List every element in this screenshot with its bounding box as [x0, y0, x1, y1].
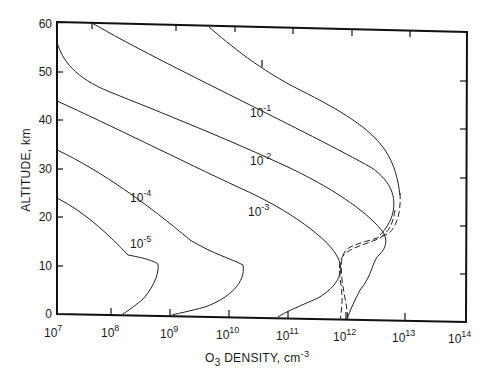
- y-tick-50: 50: [39, 65, 53, 79]
- x-tick-1e11: 1011: [276, 326, 299, 343]
- y-tick-60: 60: [39, 17, 53, 31]
- curves: [57, 23, 400, 320]
- x-tick-1e10: 1010: [216, 325, 239, 342]
- y-tick-30: 30: [39, 162, 53, 176]
- curve-labels: 10-1 10-2 10-3 10-4 10-5: [130, 103, 271, 251]
- x-tick-1e13: 1013: [392, 328, 415, 345]
- label-1e-5: 10-5: [130, 234, 151, 251]
- y-tick-10: 10: [39, 259, 53, 273]
- x-tick-1e8: 108: [101, 323, 119, 340]
- curve-1e-5: [57, 198, 158, 314]
- x-tick-1e14: 1014: [448, 329, 471, 346]
- x-tick-1e9: 109: [160, 324, 178, 341]
- x-axis-ticks: [92, 23, 410, 320]
- label-1e-2: 10-2: [250, 151, 271, 168]
- label-1e-4: 10-4: [130, 188, 151, 205]
- ozone-density-altitude-chart: 60 50 40 30 20 10 0 107 108 109 1010 101…: [0, 0, 494, 386]
- y-axis-ticks: [57, 72, 466, 274]
- x-axis-title: O3 DENSITY, cm-3: [205, 349, 309, 368]
- label-1e-3: 10-3: [248, 202, 269, 219]
- y-axis-title: ALTITUDE, km: [19, 128, 33, 211]
- x-tick-labels: 107 108 109 1010 1011 1012 1013 1014: [44, 323, 471, 346]
- curve-1e-3: [57, 101, 341, 317]
- x-tick-1e12: 1012: [333, 327, 356, 344]
- curve-1e-2: [57, 42, 386, 319]
- y-tick-labels: 60 50 40 30 20 10 0: [39, 17, 53, 321]
- y-tick-20: 20: [39, 210, 53, 224]
- curve-top: [209, 27, 400, 195]
- dashed-profile-a: [341, 193, 400, 320]
- x-tick-1e7: 107: [44, 323, 62, 340]
- y-tick-0: 0: [45, 307, 52, 321]
- label-1e-1: 10-1: [250, 103, 271, 120]
- y-tick-40: 40: [39, 113, 53, 127]
